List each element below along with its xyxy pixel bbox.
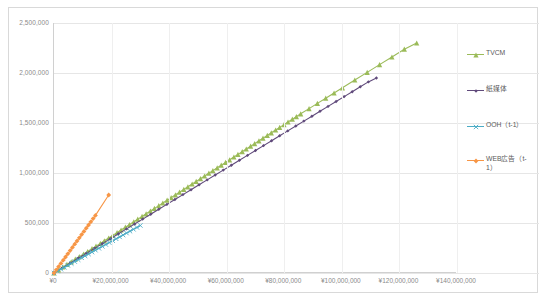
- legend-item-WEB広告（t-1）[interactable]: WEB広告（t-1）: [467, 155, 533, 172]
- y-axis-tick-label: 0: [5, 269, 49, 276]
- x-axis-tick-label: ¥80,000,000: [265, 277, 301, 284]
- legend-item-紙媒体[interactable]: 紙媒体: [467, 85, 533, 95]
- series-layer: [54, 23, 457, 273]
- series-TVCM: [51, 40, 419, 275]
- gridline-vertical: [227, 23, 228, 273]
- gridline-vertical: [399, 23, 400, 273]
- data-point: [352, 77, 357, 82]
- legend-item-TVCM[interactable]: TVCM: [467, 49, 533, 59]
- data-point: [414, 40, 419, 45]
- x-axis-tick-label: ¥140,000,000: [436, 277, 476, 284]
- gridline-vertical: [284, 23, 285, 273]
- x-axis-tick-label: ¥20,000,000: [92, 277, 128, 284]
- legend-label: 紙媒体: [486, 85, 507, 94]
- plot-area: [53, 23, 456, 273]
- gridline-vertical: [112, 23, 113, 273]
- data-point: [315, 101, 320, 106]
- chart-container: 0500,0001,000,0001,500,0002,000,0002,500…: [8, 7, 538, 293]
- gridline-vertical: [342, 23, 343, 273]
- legend-marker-icon: [467, 156, 484, 165]
- legend-item-OOH（t-1）[interactable]: OOH（t-1）: [467, 121, 533, 131]
- legend-label: OOH（t-1）: [486, 121, 523, 130]
- x-axis-tick-label: ¥0: [49, 277, 56, 284]
- legend-marker-icon: [467, 86, 484, 95]
- gridline: [53, 273, 539, 274]
- gridline-vertical: [169, 23, 170, 273]
- data-point: [323, 96, 328, 101]
- x-axis-tick-label: ¥40,000,000: [150, 277, 186, 284]
- y-axis-tick-label: 2,500,000: [5, 19, 49, 26]
- chart-legend: TVCM紙媒体OOH（t-1）WEB広告（t-1）: [467, 23, 533, 273]
- y-axis-tick-label: 2,000,000: [5, 69, 49, 76]
- series-WEB広告（t-1）: [52, 193, 111, 276]
- series-OOH（t-1）: [52, 223, 143, 275]
- y-axis-tick-label: 500,000: [5, 219, 49, 226]
- data-point: [365, 70, 370, 75]
- y-axis-tick-label: 1,500,000: [5, 119, 49, 126]
- x-axis-tick-label: ¥60,000,000: [208, 277, 244, 284]
- data-point: [331, 90, 336, 95]
- data-point: [389, 54, 394, 59]
- x-axis-tick-label: ¥120,000,000: [379, 277, 419, 284]
- x-axis-tick-label: ¥100,000,000: [321, 277, 361, 284]
- data-point: [375, 76, 378, 79]
- gridline-vertical: [457, 23, 458, 273]
- legend-marker-icon: [467, 50, 484, 59]
- data-point: [377, 62, 382, 67]
- data-point: [402, 47, 407, 52]
- data-point: [298, 111, 303, 116]
- y-axis-tick-label: 1,000,000: [5, 169, 49, 176]
- legend-marker-icon: [467, 122, 484, 131]
- data-point: [306, 106, 311, 111]
- legend-label: TVCM: [486, 49, 505, 58]
- legend-label: WEB広告（t-1）: [486, 155, 533, 172]
